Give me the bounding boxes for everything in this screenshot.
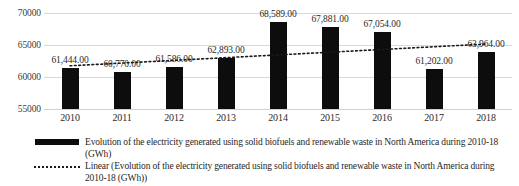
x-axis-tick-label-2012: 2012 <box>146 112 202 124</box>
x-axis: 201020112012201320142015201620172018 <box>44 112 512 126</box>
x-axis-tick-label-2013: 2013 <box>198 112 254 124</box>
plot-area: 61,444.0060,770.0061,586.0062,893.0068,5… <box>44 4 512 109</box>
trendline-path <box>70 44 486 66</box>
chart-legend: Evolution of the electricity generated u… <box>33 137 513 185</box>
bar-swatch-icon <box>33 137 81 149</box>
x-axis-tick-label-2011: 2011 <box>94 112 150 124</box>
y-axis-tick-label: 60000 <box>0 73 41 83</box>
x-axis-tick-label-2014: 2014 <box>250 112 306 124</box>
y-axis-tick-label: 70000 <box>0 9 41 19</box>
gridline-55000-axis <box>44 109 512 110</box>
legend-item-label: Evolution of the electricity generated u… <box>85 137 513 160</box>
x-axis-tick-label-2015: 2015 <box>302 112 358 124</box>
y-axis-tick-label: 65000 <box>0 41 41 51</box>
dotted-line-swatch-icon <box>33 161 81 173</box>
legend-item-trendline-series[interactable]: Linear (Evolution of the electricity gen… <box>33 161 513 184</box>
x-axis-tick-label-2010: 2010 <box>42 112 98 124</box>
x-axis-tick-label-2016: 2016 <box>354 112 410 124</box>
legend-item-bar-series[interactable]: Evolution of the electricity generated u… <box>33 137 513 160</box>
x-axis-tick-label-2017: 2017 <box>406 112 462 124</box>
trendline <box>44 4 512 109</box>
y-axis-tick-label: 55000 <box>0 105 41 115</box>
x-axis-tick-label-2018: 2018 <box>458 112 514 124</box>
bar-chart: 70000 65000 60000 55000 61,444.0060,770.… <box>0 0 519 186</box>
legend-item-label: Linear (Evolution of the electricity gen… <box>85 161 513 184</box>
